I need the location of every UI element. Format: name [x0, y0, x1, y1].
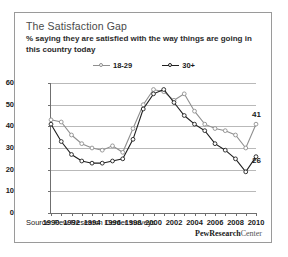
- data-point-marker: [162, 88, 166, 92]
- data-point-marker: [244, 170, 248, 174]
- chart-figure: The Satisfaction Gap % saying they are s…: [14, 12, 272, 243]
- legend-marker-30-plus: [162, 62, 179, 69]
- data-point-marker: [203, 122, 207, 126]
- series-end-label: 41: [252, 110, 261, 119]
- data-point-marker: [59, 140, 63, 144]
- data-point-marker: [90, 146, 94, 150]
- data-point-marker: [100, 148, 104, 152]
- data-point-marker: [193, 109, 197, 113]
- data-point-marker: [223, 129, 227, 133]
- y-tick-label: 10: [0, 186, 14, 195]
- y-tick-label: 40: [0, 121, 14, 130]
- data-point-marker: [234, 157, 238, 161]
- y-tick-label: 20: [0, 165, 14, 174]
- data-point-marker: [49, 118, 53, 122]
- data-point-marker: [49, 122, 53, 126]
- data-point-marker: [80, 142, 84, 146]
- x-axis-line: [50, 213, 257, 214]
- chart-legend: 18-29 30+: [15, 59, 273, 71]
- data-point-marker: [100, 161, 104, 165]
- data-point-marker: [80, 159, 84, 163]
- data-point-marker: [70, 153, 74, 157]
- data-point-marker: [141, 103, 145, 107]
- data-point-marker: [121, 157, 125, 161]
- data-point-marker: [254, 122, 258, 126]
- pew-research-logo: PewResearchCenter: [195, 229, 262, 238]
- y-tick-label: 30: [0, 143, 14, 152]
- data-point-marker: [203, 129, 207, 133]
- data-point-marker: [182, 114, 186, 118]
- data-point-marker: [213, 127, 217, 131]
- data-point-marker: [121, 150, 125, 154]
- data-point-marker: [152, 88, 156, 92]
- chart-title: The Satisfaction Gap: [26, 20, 127, 32]
- legend-item-18-29[interactable]: 18-29: [93, 61, 132, 70]
- data-point-marker: [131, 137, 135, 141]
- y-tick-label: 50: [0, 100, 14, 109]
- plot-area: 0102030405060 19901992199419961998200020…: [51, 83, 256, 213]
- y-tick-label: 0: [0, 208, 14, 217]
- data-point-marker: [182, 92, 186, 96]
- data-point-marker: [111, 144, 115, 148]
- legend-marker-18-29: [93, 62, 110, 69]
- series-end-label: 26: [252, 156, 261, 165]
- data-point-marker: [59, 120, 63, 124]
- data-point-marker: [223, 148, 227, 152]
- x-tick-label: 2010: [243, 218, 269, 227]
- legend-item-30-plus[interactable]: 30+: [162, 61, 195, 70]
- series-lines: [51, 83, 256, 213]
- data-point-marker: [193, 122, 197, 126]
- data-point-marker: [152, 92, 156, 96]
- data-point-marker: [213, 142, 217, 146]
- data-point-marker: [141, 107, 145, 111]
- logo-secondary-text: Center: [241, 229, 262, 238]
- data-point-marker: [90, 161, 94, 165]
- legend-label-18-29: 18-29: [113, 61, 132, 70]
- data-point-marker: [234, 133, 238, 137]
- chart-subtitle: % saying they are satisfied with the way…: [26, 34, 262, 55]
- data-point-marker: [172, 101, 176, 105]
- data-point-marker: [244, 146, 248, 150]
- data-point-marker: [111, 159, 115, 163]
- source-note: Source: Pew Research Center surveys: [26, 218, 155, 227]
- data-point-marker: [70, 133, 74, 137]
- logo-primary-text: PewResearch: [195, 229, 241, 238]
- legend-label-30-plus: 30+: [182, 61, 195, 70]
- data-point-marker: [131, 127, 135, 131]
- y-tick-label: 60: [0, 78, 14, 87]
